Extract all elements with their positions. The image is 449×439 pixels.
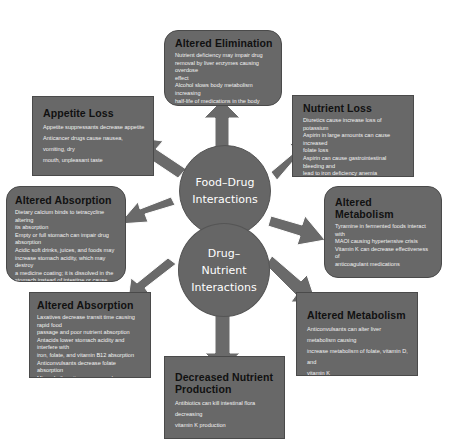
arrow-left-icon [119, 197, 175, 224]
box-title: Altered Absorption [15, 194, 117, 206]
box-title: Altered Absorption [37, 299, 142, 311]
box-altered-absorption-food: Altered Absorption Dietary calcium binds… [6, 186, 126, 282]
box-altered-metabolism-food: Altered Metabolism Tyramine in fermented… [324, 186, 442, 278]
box-title: Decreased Nutrient Production [175, 371, 276, 395]
box-title: Appetite Loss [43, 107, 145, 119]
box-decreased-nutrient-production: Decreased Nutrient Production Antibiotic… [164, 356, 285, 439]
box-altered-metabolism-drug: Altered Metabolism Anticonvulsants can a… [296, 292, 418, 376]
box-title: Altered Metabolism [335, 196, 433, 220]
box-title: Altered Metabolism [307, 309, 409, 321]
circle-drug-nutrient-interactions: Drug– Nutrient Interactions [178, 223, 270, 317]
drug-nutrient-diagram: Altered Elimination Nutrient deficiency … [0, 0, 449, 439]
box-title: Nutrient Loss [303, 102, 405, 114]
box-title: Altered Elimination [175, 37, 273, 49]
arrow-up-icon [204, 100, 240, 150]
box-appetite-loss: Appetite Loss Appetite suppressants decr… [32, 96, 154, 176]
box-nutrient-loss: Nutrient Loss Diuretics cause increase l… [292, 95, 414, 177]
box-altered-absorption-drug: Altered Absorption Laxatives decrease tr… [29, 292, 151, 378]
arrow-right-icon [268, 216, 325, 245]
box-altered-elimination: Altered Elimination Nutrient deficiency … [164, 30, 282, 106]
